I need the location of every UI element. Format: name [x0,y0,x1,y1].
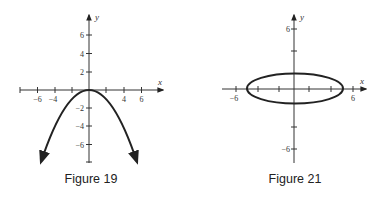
y-tick-label: −2 [75,104,84,113]
x-tick-label: −6 [230,94,239,103]
x-tick-label: 6 [351,94,355,103]
y-tick-label: −6 [281,145,290,154]
y-tick-label: −4 [75,122,84,131]
y-axis-label: y [94,12,99,22]
y-tick-label: 4 [80,50,84,59]
y-tick-label: 6 [80,31,84,40]
x-axis-label: x [359,76,364,86]
x-tick-label: 6 [140,95,144,104]
x-tick-label: 4 [122,95,126,104]
y-tick-label: −6 [75,141,84,150]
figure-21: −6 6 6 −6 x y Figure 21 [222,12,366,186]
x-tick-label: −4 [49,95,58,104]
x-tick-label: −6 [33,95,42,104]
x-axis-label: x [157,77,162,87]
y-axis-label: y [299,12,304,22]
figure-19: −6 −4 4 6 6 4 2 −2 −4 −6 x y Figure 19 [20,12,163,186]
figures-canvas: −6 −4 4 6 6 4 2 −2 −4 −6 x y Figure 19 [0,0,384,198]
figure-caption: Figure 19 [65,172,118,186]
figure-caption: Figure 21 [269,172,322,186]
y-tick-label: 6 [286,25,290,34]
y-tick-label: 2 [80,68,84,77]
